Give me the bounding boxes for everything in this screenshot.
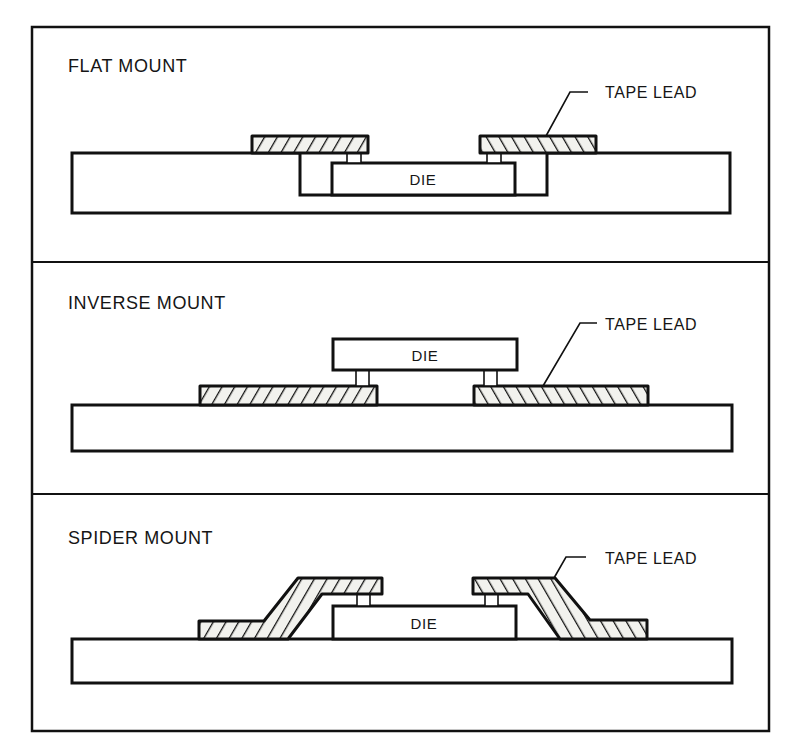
bump [485, 594, 498, 606]
callout-label: TAPE LEAD [605, 84, 697, 101]
bump [357, 594, 370, 606]
bump [356, 370, 369, 386]
die-label: DIE [410, 171, 437, 188]
tape-lead-left [252, 136, 368, 153]
tape-lead-right [474, 386, 648, 405]
substrate [72, 639, 732, 683]
callout-label: TAPE LEAD [605, 550, 697, 567]
bump [484, 370, 497, 386]
tape-lead-right [480, 136, 596, 153]
panel-title: SPIDER MOUNT [68, 528, 213, 548]
die-label: DIE [411, 615, 438, 632]
tape-lead-left [200, 386, 377, 405]
panel-title: FLAT MOUNT [68, 56, 187, 76]
panel-title: INVERSE MOUNT [68, 293, 226, 313]
substrate [72, 405, 732, 451]
callout-label: TAPE LEAD [605, 316, 697, 333]
die-label: DIE [412, 347, 439, 364]
tape-automated-bonding-mount-diagram: FLAT MOUNT DIE TAPE LEAD INVERSE MOUNT D… [0, 0, 794, 754]
